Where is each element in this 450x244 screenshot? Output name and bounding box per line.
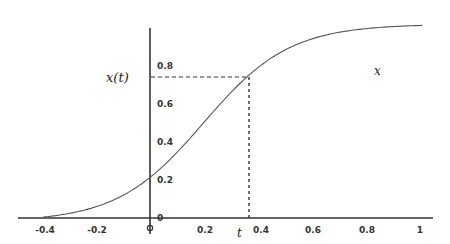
- y-tick-0.2: 0.2: [157, 175, 173, 185]
- x-of-t-label: x(t): [106, 70, 129, 85]
- y-tick-0.8: 0.8: [157, 61, 173, 71]
- y-tick-0: 0: [157, 213, 163, 223]
- y-tick-0.4: 0.4: [157, 137, 173, 147]
- sigmoid-chart: 0 0.2 0.4 0.6 0.8 -0.4 -0.2 0.2 0.4 0.6 …: [0, 0, 450, 244]
- x-tick-labels: -0.4 -0.2 0.2 0.4 0.6 0.8 1: [35, 225, 423, 235]
- x-tick-0.6: 0.6: [305, 225, 321, 235]
- t-label: t: [237, 226, 242, 240]
- curve-label: x: [374, 64, 381, 78]
- x-tick-0.8: 0.8: [359, 225, 375, 235]
- sigmoid-curve: [43, 25, 422, 217]
- x-tick-0.4: 0.4: [253, 225, 269, 235]
- x-tick-1: 1: [417, 225, 423, 235]
- x-tick--0.2: -0.2: [87, 225, 107, 235]
- x-tick-0.2: 0.2: [197, 225, 213, 235]
- y-tick-labels: 0 0.2 0.4 0.6 0.8: [157, 61, 173, 223]
- x-tick--0.4: -0.4: [35, 225, 55, 235]
- y-tick-0.6: 0.6: [157, 99, 173, 109]
